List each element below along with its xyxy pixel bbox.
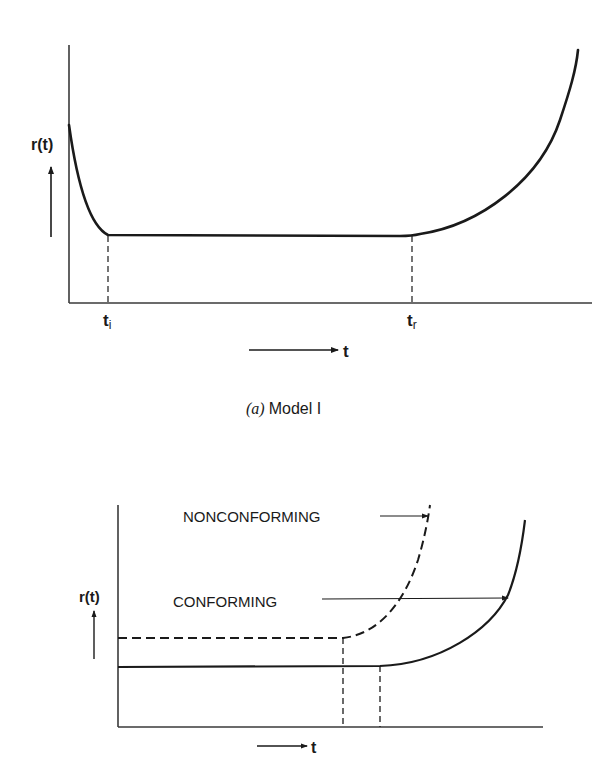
figure-canvas: r(t) ti tr t (a)Model I NONCONFORMING [0, 0, 614, 772]
figure-b-conforming-vs-nonconforming: NONCONFORMING CONFORMING r(t) t [79, 505, 543, 756]
conforming-pointer-arrow [322, 598, 508, 599]
figure-a-model-1: r(t) ti tr t (a)Model I [31, 45, 592, 418]
x-axis-label: t [343, 342, 349, 361]
ti-label: ti [103, 311, 111, 332]
bathtub-curve [69, 50, 578, 236]
figure-a-caption: (a)Model I [246, 400, 321, 418]
nonconforming-label: NONCONFORMING [183, 508, 321, 525]
conforming-label: CONFORMING [173, 593, 277, 610]
y-axis-label: r(t) [31, 136, 53, 153]
y-axis-label: r(t) [79, 588, 100, 605]
x-axis-label: t [311, 739, 317, 756]
tr-label: tr [407, 311, 417, 332]
